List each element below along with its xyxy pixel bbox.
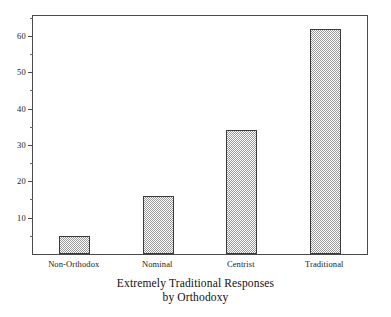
plot-surface: 102030405060	[33, 16, 367, 254]
caption-line-1: Extremely Traditional Responses	[0, 276, 391, 290]
y-axis-tick-minor	[30, 236, 33, 237]
y-axis-tick-major	[28, 72, 33, 73]
y-axis-tick-minor	[30, 127, 33, 128]
y-axis-tick-major	[28, 109, 33, 110]
plot-frame: 102030405060	[32, 15, 368, 255]
y-axis-tick-minor	[30, 163, 33, 164]
y-axis-tick-major	[28, 181, 33, 182]
y-axis-tick-major	[28, 145, 33, 146]
y-axis-tick-major	[28, 36, 33, 37]
y-axis-tick-minor	[30, 54, 33, 55]
x-axis-label-nominal: Nominal	[142, 260, 172, 269]
y-axis-tick-major	[28, 218, 33, 219]
chart-caption: Extremely Traditional Responses by Ortho…	[0, 276, 391, 304]
caption-line-2: by Orthodoxy	[0, 290, 391, 304]
bar-nominal	[143, 196, 174, 254]
bar-centrist	[226, 130, 257, 254]
x-axis-label-non-orthodox: Non-Orthodox	[48, 260, 99, 269]
y-axis-tick-label: 20	[17, 177, 26, 186]
y-axis-tick-label: 50	[17, 68, 26, 77]
y-axis-tick-label: 40	[17, 104, 26, 113]
y-axis-tick-minor	[30, 199, 33, 200]
bar-chart-figure: 102030405060 Non-OrthodoxNominalCentrist…	[0, 0, 391, 317]
bar-traditional	[310, 29, 341, 254]
x-axis-label-traditional: Traditional	[305, 260, 344, 269]
bar-non-orthodox	[59, 236, 90, 254]
y-axis-tick-label: 10	[17, 213, 26, 222]
y-axis-tick-minor	[30, 18, 33, 19]
y-axis-tick-label: 30	[17, 141, 26, 150]
y-axis-tick-minor	[30, 90, 33, 91]
y-axis-tick-label: 60	[17, 32, 26, 41]
x-axis-label-centrist: Centrist	[227, 260, 255, 269]
